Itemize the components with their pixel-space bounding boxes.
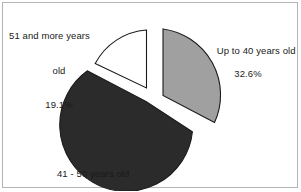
pie-label-up-to-40: Up to 40 years old 32.6% xyxy=(199,33,297,102)
pie-label-41-50: 41 - 50 years old 48.3% xyxy=(33,156,137,191)
pie-label-51-line1: 51 and more years xyxy=(7,30,111,42)
pie-chart: 51 and more years old 19.1% Up to 40 yea… xyxy=(0,0,301,191)
chart-page: 51 and more years old 19.1% Up to 40 yea… xyxy=(0,0,301,191)
pie-label-51-line2: old xyxy=(7,65,111,77)
pie-label-40-line1: Up to 40 years old xyxy=(217,45,296,56)
pie-label-41-line1: 41 - 50 years old xyxy=(57,168,129,179)
pie-label-40-percent: 32.6% xyxy=(199,68,297,80)
pie-label-51-and-more: 51 and more years old 19.1% xyxy=(7,7,111,134)
pie-label-41-percent: 48.3% xyxy=(33,191,137,192)
pie-label-51-percent: 19.1% xyxy=(7,99,111,111)
